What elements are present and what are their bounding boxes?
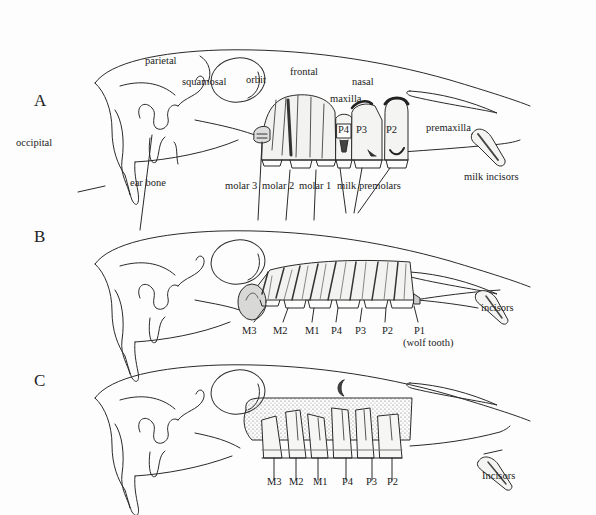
label-molar-3: molar 3	[225, 180, 257, 192]
label-a-p4: P4	[338, 124, 349, 136]
label-premaxilla: premaxilla	[426, 122, 471, 134]
label-c-m2: M2	[289, 476, 304, 488]
label-b-m3: M3	[242, 325, 257, 337]
figure-canvas: A B C parietal squamosal orbit frontal n…	[0, 0, 596, 515]
label-c-p4: P4	[342, 476, 353, 488]
label-b-p2: P2	[382, 325, 393, 337]
label-c-m3: M3	[267, 476, 282, 488]
label-squamosal: squamosal	[182, 76, 226, 88]
label-parietal: parietal	[145, 55, 176, 67]
label-c-m1: M1	[313, 476, 328, 488]
label-c-incisors: Incisors	[482, 470, 515, 482]
label-b-wolf-tooth: (wolf tooth)	[403, 337, 453, 349]
label-c-p2: P2	[387, 476, 398, 488]
label-b-p4: P4	[331, 325, 342, 337]
label-orbit: orbit	[246, 74, 266, 86]
label-molar-1: molar 1	[299, 180, 331, 192]
panel-letter-b: B	[34, 228, 45, 246]
label-b-m1: M1	[305, 325, 320, 337]
label-frontal: frontal	[290, 66, 318, 78]
label-ear-bone: ear bone	[130, 177, 166, 189]
label-occipital: occipital	[16, 137, 52, 149]
label-b-p3: P3	[355, 325, 366, 337]
panel-letter-a: A	[34, 92, 46, 110]
label-c-p3: P3	[366, 476, 377, 488]
label-milk-incisors: milk incisors	[464, 171, 519, 183]
label-a-p2: P2	[386, 124, 397, 136]
label-a-p3: P3	[356, 124, 367, 136]
skull-b	[95, 231, 530, 382]
label-maxilla: maxilla	[330, 93, 362, 105]
panel-letter-c: C	[34, 372, 45, 390]
label-b-m2: M2	[273, 325, 288, 337]
label-nasal: nasal	[352, 76, 374, 88]
label-milk-premolars: milk premolars	[337, 180, 401, 192]
skull-c	[95, 365, 530, 515]
label-b-p1: P1	[414, 325, 425, 337]
label-b-incisors: incisors	[481, 302, 514, 314]
label-molar-2: molar 2	[262, 180, 294, 192]
